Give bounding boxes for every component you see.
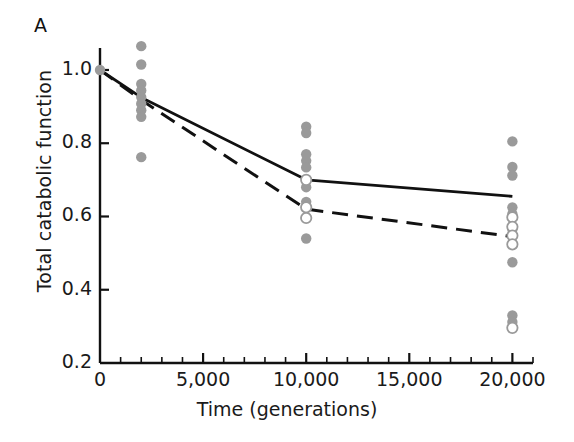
data-points <box>95 41 518 333</box>
data-point-open <box>301 175 311 185</box>
data-point-filled <box>507 257 517 267</box>
data-point-filled <box>95 65 105 75</box>
data-point-filled <box>136 152 146 162</box>
y-tick-label: 1.0 <box>32 57 92 79</box>
data-point-open <box>507 239 517 249</box>
data-point-filled <box>136 112 146 122</box>
figure-panel-a: A Total catabolic function Time (generat… <box>0 0 574 442</box>
x-tick-label: 15,000 <box>349 368 469 390</box>
data-point-filled <box>507 170 517 180</box>
x-tick-label: 5,000 <box>143 368 263 390</box>
data-point-filled <box>301 162 311 172</box>
data-point-filled <box>301 233 311 243</box>
data-point-filled <box>136 59 146 69</box>
data-point-filled <box>136 41 146 51</box>
data-point-filled <box>507 136 517 146</box>
data-point-open <box>301 202 311 212</box>
x-tick-label: 20,000 <box>452 368 572 390</box>
y-tick-label: 0.4 <box>32 277 92 299</box>
x-tick-label: 10,000 <box>246 368 366 390</box>
data-point-filled <box>301 128 311 138</box>
data-point-open <box>507 323 517 333</box>
x-tick-label: 0 <box>40 368 160 390</box>
y-tick-label: 0.8 <box>32 130 92 152</box>
axes <box>100 48 533 363</box>
y-tick-label: 0.6 <box>32 203 92 225</box>
data-point-open <box>301 213 311 223</box>
